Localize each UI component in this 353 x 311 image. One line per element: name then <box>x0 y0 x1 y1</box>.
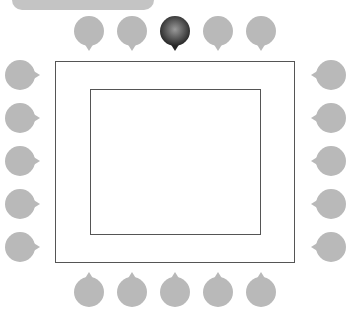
map-pin-icon-left-5[interactable] <box>0 226 41 268</box>
map-pin-icon-left-4[interactable] <box>0 183 41 225</box>
selected-map-pin-icon-top-3[interactable] <box>154 10 196 52</box>
top-tab-bar[interactable] <box>12 0 154 10</box>
map-pin-icon-bottom-4[interactable] <box>197 271 239 311</box>
inner-frame <box>90 89 261 235</box>
map-pin-icon-top-2[interactable] <box>111 10 153 52</box>
map-pin-icon-top-1[interactable] <box>68 10 110 52</box>
map-pin-icon-left-3[interactable] <box>0 140 41 182</box>
map-pin-icon-bottom-1[interactable] <box>68 271 110 311</box>
map-pin-icon-right-2[interactable] <box>310 97 352 139</box>
map-pin-icon-right-1[interactable] <box>310 54 352 96</box>
map-pin-icon-right-3[interactable] <box>310 140 352 182</box>
map-pin-icon-bottom-5[interactable] <box>240 271 282 311</box>
map-pin-icon-top-5[interactable] <box>240 10 282 52</box>
map-pin-icon-bottom-2[interactable] <box>111 271 153 311</box>
map-pin-icon-bottom-3[interactable] <box>154 271 196 311</box>
map-pin-icon-right-4[interactable] <box>310 183 352 225</box>
map-pin-icon-left-1[interactable] <box>0 54 41 96</box>
map-pin-icon-top-4[interactable] <box>197 10 239 52</box>
map-pin-icon-left-2[interactable] <box>0 97 41 139</box>
map-pin-icon-right-5[interactable] <box>310 226 352 268</box>
